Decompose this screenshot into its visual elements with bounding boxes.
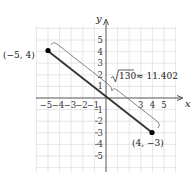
x-tick: −4 [52, 100, 65, 110]
y-tick: 2 [98, 116, 103, 126]
y-tick: 4 [98, 139, 103, 149]
point-a [45, 48, 50, 53]
y-tick: 5 [98, 151, 103, 161]
point-b-label: (4, −3) [132, 138, 164, 148]
y-tick: 5 [98, 35, 103, 45]
coordinate-plane: x y −5 −4 −3 −2 −1 3 4 5 5 4 3 2 1 1 2 3… [0, 0, 196, 172]
x-tick: 5 [161, 100, 166, 110]
axes [36, 20, 182, 172]
distance-radicand: 130 [119, 71, 136, 81]
distance-brace [51, 43, 160, 128]
x-tick: −5 [40, 100, 53, 110]
y-tick: 3 [98, 58, 103, 68]
point-b [149, 130, 154, 135]
x-tick: 4 [150, 100, 155, 110]
y-tick: 1 [98, 105, 103, 115]
y-tick: 4 [98, 47, 103, 57]
y-axis-label: y [95, 13, 102, 24]
x-tick-labels: −5 −4 −3 −2 −1 3 4 5 [40, 100, 167, 110]
point-a-label: (−5, 4) [3, 50, 35, 60]
y-tick: 3 [98, 128, 103, 138]
x-axis-label: x [185, 98, 191, 109]
distance-label: 130 ≈ 11.402 [111, 70, 178, 82]
distance-approx: ≈ 11.402 [136, 71, 178, 81]
